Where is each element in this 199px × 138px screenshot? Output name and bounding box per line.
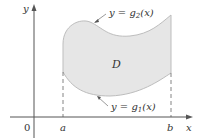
tick-label-b: b bbox=[167, 122, 173, 133]
upper-curve-label: y = g2(x) bbox=[108, 7, 154, 20]
region-d bbox=[63, 15, 171, 96]
lower-curve-label: y = g1(x) bbox=[110, 101, 156, 114]
y-axis-arrow-icon bbox=[32, 4, 37, 11]
x-axis-arrow-icon bbox=[186, 115, 193, 120]
y-axis-label: y bbox=[22, 3, 29, 14]
region-label: D bbox=[111, 58, 121, 71]
tick-label-a: a bbox=[60, 122, 66, 133]
x-axis-label: x bbox=[186, 122, 192, 133]
origin-label: 0 bbox=[24, 122, 30, 133]
type-i-region-diagram: y x 0 a b D y = g2(x) y = g1(x) bbox=[0, 0, 199, 138]
